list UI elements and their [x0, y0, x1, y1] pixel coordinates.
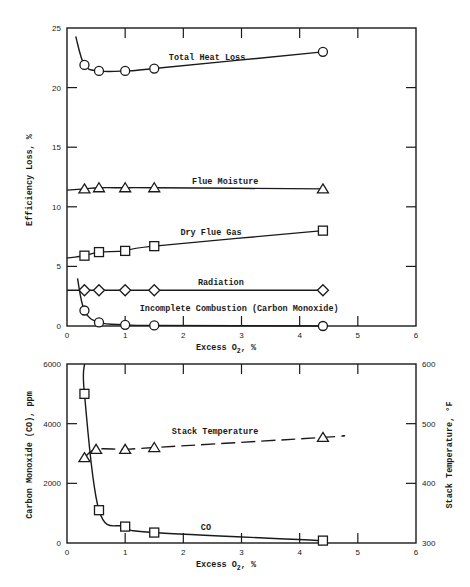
circle-marker-icon — [121, 320, 130, 329]
series-line — [67, 188, 323, 190]
bottom-x-axis-title-main: Excess O — [196, 560, 237, 570]
efficiency-loss-chart: 01234560510152025Total Heat LossFlue Moi… — [52, 24, 419, 340]
x-tick-label: 5 — [356, 331, 361, 340]
y2-tick-label: 300 — [422, 539, 436, 548]
square-marker-icon — [318, 226, 327, 235]
circle-marker-icon — [150, 321, 159, 330]
top-x-axis-title: Excess O2, % — [196, 343, 257, 355]
y-tick-label: 6000 — [43, 360, 61, 369]
circle-marker-icon — [121, 66, 130, 75]
square-marker-icon — [150, 528, 159, 537]
circle-marker-icon — [318, 47, 327, 56]
triangle-marker-icon — [149, 443, 160, 452]
square-marker-icon — [121, 246, 130, 255]
square-marker-icon — [150, 242, 159, 251]
series-label: Incomplete Combustion (Carbon Monoxide) — [140, 304, 339, 314]
square-marker-icon — [94, 248, 103, 257]
y-tick-label: 0 — [57, 322, 62, 331]
y2-tick-label: 400 — [422, 479, 436, 488]
x-tick-label: 1 — [123, 331, 128, 340]
series-line — [83, 364, 323, 541]
diamond-marker-icon — [149, 285, 160, 296]
circle-marker-icon — [318, 322, 327, 331]
series-label: Total Heat Loss — [169, 53, 246, 63]
y-tick-label: 15 — [52, 143, 61, 152]
triangle-marker-icon — [91, 444, 102, 453]
circle-marker-icon — [80, 306, 89, 315]
x-tick-label: 1 — [123, 548, 128, 557]
series-label: Flue Moisture — [192, 177, 258, 187]
diamond-marker-icon — [120, 285, 131, 296]
x-tick-label: 3 — [239, 331, 244, 340]
diamond-marker-icon — [93, 285, 104, 296]
series-co — [80, 364, 327, 545]
x-tick-label: 6 — [414, 548, 419, 557]
top-y-axis-title: Efficiency Loss, % — [25, 133, 35, 226]
series-label: Radiation — [198, 278, 244, 288]
x-tick-label: 2 — [181, 548, 186, 557]
y2-tick-label: 500 — [422, 420, 436, 429]
y-tick-label: 20 — [52, 84, 61, 93]
y-tick-label: 0 — [57, 539, 62, 548]
square-marker-icon — [80, 389, 89, 398]
circle-marker-icon — [94, 66, 103, 75]
figure: 01234560510152025Total Heat LossFlue Moi… — [0, 0, 470, 587]
series-label: Stack Temperature — [172, 427, 259, 437]
y2-tick-label: 600 — [422, 360, 436, 369]
y-tick-label: 10 — [52, 203, 61, 212]
y-tick-label: 5 — [57, 262, 62, 271]
circle-marker-icon — [150, 64, 159, 73]
bottom-x-axis-title: Excess O2, % — [196, 560, 257, 572]
bottom-x-axis-title-tail: , % — [241, 560, 257, 570]
square-marker-icon — [318, 536, 327, 545]
square-marker-icon — [121, 522, 130, 531]
x-tick-label: 5 — [356, 548, 361, 557]
y-tick-label: 25 — [52, 24, 61, 33]
x-tick-label: 6 — [414, 331, 419, 340]
circle-marker-icon — [94, 318, 103, 327]
x-tick-label: 4 — [297, 331, 302, 340]
diamond-marker-icon — [317, 285, 328, 296]
y-tick-label: 4000 — [43, 420, 61, 429]
x-tick-label: 0 — [65, 331, 70, 340]
top-x-axis-title-tail: , % — [241, 343, 257, 353]
series-label: CO — [201, 523, 211, 533]
square-marker-icon — [80, 251, 89, 260]
circle-marker-icon — [80, 60, 89, 69]
x-tick-label: 0 — [65, 548, 70, 557]
x-tick-label: 4 — [297, 548, 302, 557]
x-tick-label: 2 — [181, 331, 186, 340]
square-marker-icon — [94, 506, 103, 515]
series-label: Dry Flue Gas — [180, 228, 241, 238]
bottom-y-axis-title: Carbon Monoxide (CO), ppm — [25, 391, 35, 519]
bottom-y2-axis-title: Stack Temperature, °F — [445, 401, 455, 508]
co-stack-temperature-chart: 01234560200040006000300400500600Stack Te… — [43, 360, 436, 557]
top-x-axis-title-main: Excess O — [196, 343, 237, 353]
y-tick-label: 2000 — [43, 479, 61, 488]
x-tick-label: 3 — [239, 548, 244, 557]
